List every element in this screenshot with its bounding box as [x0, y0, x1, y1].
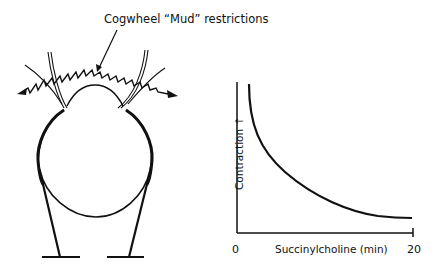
chart-axes [237, 82, 413, 237]
arrowhead-right-icon [167, 90, 178, 98]
contraction-curve [249, 84, 412, 218]
joint-body [38, 85, 152, 217]
y-axis-label: Contraction ↑ [233, 117, 245, 190]
figure-canvas [0, 0, 434, 271]
tendons [25, 50, 165, 108]
x-tick-20: 20 [407, 243, 421, 256]
x-tick-0: 0 [232, 243, 239, 256]
legs [42, 180, 148, 257]
x-axis-label: Succinylcholine (min) [275, 243, 388, 255]
arrowhead-left-icon [17, 88, 27, 95]
cogwheel-annotation: Cogwheel “Mud” restrictions [104, 12, 268, 26]
cogwheel-zigzag [17, 70, 178, 98]
pointer-arrow [96, 30, 117, 72]
